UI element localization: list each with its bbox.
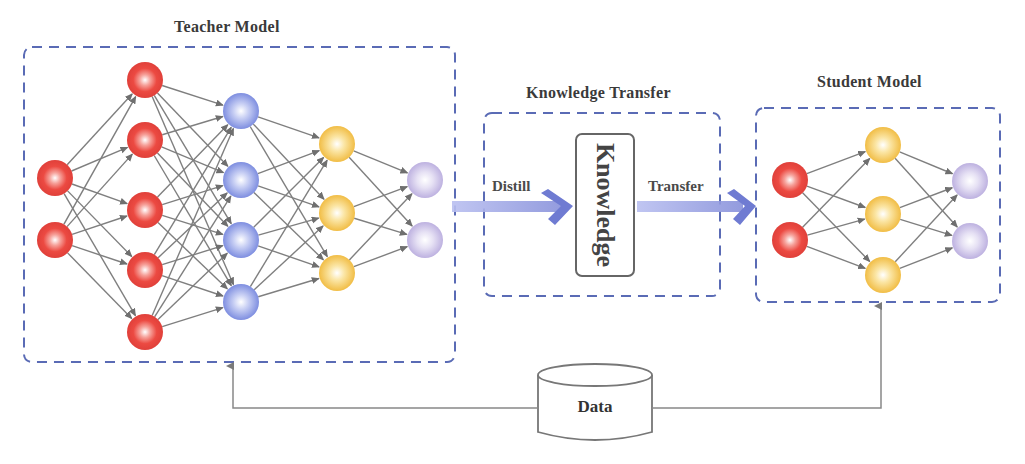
teacher-edge [162, 86, 223, 106]
teacher-edge [154, 127, 231, 254]
student-edge [807, 246, 865, 268]
student-node-hidden [865, 196, 901, 232]
data-to-student-line [652, 306, 881, 408]
teacher-edge [162, 147, 224, 173]
student-node-output [952, 223, 988, 259]
data-label: Data [555, 397, 635, 417]
teacher-edge [158, 125, 228, 197]
data-to-teacher-line [233, 366, 538, 408]
teacher-edge [162, 116, 223, 134]
knowledge-box: Knowledge [575, 133, 635, 277]
teacher-edge [258, 278, 319, 296]
teacher-node-hidden3 [319, 126, 355, 162]
teacher-edge [155, 196, 231, 317]
teacher-edge [354, 151, 408, 173]
teacher-edge [67, 94, 132, 165]
student-node-hidden [865, 127, 901, 163]
teacher-node-output [407, 162, 443, 198]
knowledge-transfer-title: Knowledge Transfer [526, 84, 671, 102]
teacher-node-hidden1 [127, 62, 163, 98]
student-edge [807, 152, 865, 174]
teacher-edge [349, 157, 412, 226]
teacher-node-hidden3 [319, 255, 355, 291]
teacher-edge [258, 246, 319, 267]
teacher-edge [349, 194, 412, 260]
teacher-node-hidden2 [223, 93, 259, 129]
student-node-hidden [865, 257, 901, 293]
teacher-node-hidden3 [319, 195, 355, 231]
teacher-node-hidden2 [223, 162, 259, 198]
student-node-output [952, 163, 988, 199]
teacher-node-hidden1 [127, 252, 163, 288]
student-edge [807, 186, 865, 207]
teacher-edge [72, 246, 127, 264]
student-edge [900, 248, 953, 269]
teacher-model-title: Teacher Model [174, 18, 280, 36]
student-edge [895, 195, 957, 262]
teacher-node-hidden2 [223, 284, 259, 320]
teacher-node-input [37, 222, 73, 258]
teacher-node-hidden1 [127, 314, 163, 350]
distill-label: Distill [492, 178, 530, 195]
teacher-edge [258, 117, 319, 138]
teacher-edge [64, 97, 136, 225]
teacher-edge [67, 154, 132, 226]
student-node-input [772, 222, 808, 258]
knowledge-label: Knowledge [590, 143, 620, 267]
student-model-title: Student Model [817, 73, 922, 91]
teacher-node-hidden2 [223, 222, 259, 258]
student-nodes [772, 127, 988, 293]
teacher-node-input [37, 160, 73, 196]
teacher-node-hidden1 [127, 122, 163, 158]
teacher-edge [354, 187, 407, 207]
student-edge [900, 152, 953, 174]
knowledge-distillation-diagram [0, 0, 1025, 464]
student-edge [807, 219, 864, 235]
student-edge [895, 158, 957, 227]
teacher-edge [72, 216, 127, 234]
teacher-nodes [37, 62, 443, 350]
teacher-edge [250, 160, 327, 286]
teacher-node-hidden1 [127, 192, 163, 228]
student-edge [900, 219, 952, 235]
student-edge [803, 159, 870, 228]
teacher-edge [162, 308, 223, 327]
student-node-input [772, 162, 808, 198]
student-edge [900, 188, 952, 208]
teacher-edge [354, 247, 407, 267]
teacher-node-output [407, 222, 443, 258]
teacher-edge [152, 128, 233, 315]
teacher-edge [254, 157, 324, 227]
transfer-label: Transfer [648, 178, 704, 195]
